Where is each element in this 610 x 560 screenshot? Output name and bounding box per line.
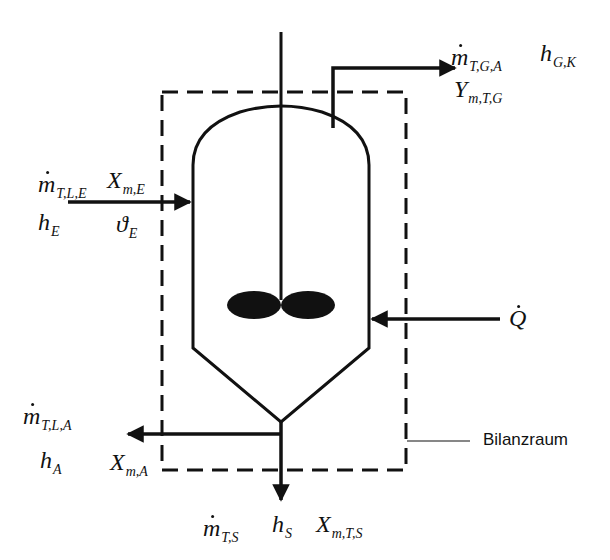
feed-loading-label: Xm,E xyxy=(107,168,145,192)
feed-mass-flow-subscript: T,L,E xyxy=(56,186,86,201)
liquid-mass-flow-symbol: m xyxy=(23,404,40,428)
solid-enthalpy-subscript: S xyxy=(285,526,292,541)
liquid-loading-subscript: m,A xyxy=(126,464,148,479)
gas-loading-label: Ym,T,G xyxy=(454,77,502,101)
liquid-enthalpy-label: hA xyxy=(40,448,62,472)
gas-enthalpy-symbol: h xyxy=(540,40,552,66)
liquid-enthalpy-symbol: h xyxy=(40,447,52,473)
diagram-canvas xyxy=(0,0,610,560)
solid-enthalpy-symbol: h xyxy=(272,511,284,537)
solid-loading-symbol: X xyxy=(316,511,331,537)
liquid-mass-flow-subscript: T,L,A xyxy=(41,418,71,433)
feed-mass-flow-label: mT,L,E xyxy=(38,172,86,196)
gas-enthalpy-subscript: G,K xyxy=(553,55,576,70)
heat-flow-label: Q xyxy=(509,306,526,330)
gas-mass-flow-symbol: m xyxy=(451,45,468,69)
feed-enthalpy-label: hE xyxy=(38,210,60,234)
solid-loading-label: Xm,T,S xyxy=(316,512,363,536)
impeller-blade-left xyxy=(227,291,281,319)
liquid-loading-label: Xm,A xyxy=(110,450,148,474)
liquid-loading-symbol: X xyxy=(110,449,125,475)
solid-loading-subscript: m,T,S xyxy=(332,526,363,541)
gas-mass-flow-label: mT,G,A xyxy=(451,45,502,69)
feed-temperature-symbol: ϑ xyxy=(116,211,128,237)
balance-space-label: Bilanzraum xyxy=(483,430,568,450)
liquid-mass-flow-label: mT,L,A xyxy=(23,404,71,428)
feed-temperature-subscript: E xyxy=(129,226,138,241)
feed-temperature-label: ϑE xyxy=(116,212,137,236)
feed-enthalpy-symbol: h xyxy=(38,209,50,235)
solid-mass-flow-label: mT,S xyxy=(203,516,239,540)
gas-loading-subscript: m,T,G xyxy=(468,91,502,106)
impeller-blade-right xyxy=(281,291,335,319)
gas-loading-symbol: Y xyxy=(454,76,467,102)
feed-loading-symbol: X xyxy=(107,167,122,193)
feed-loading-subscript: m,E xyxy=(123,182,145,197)
gas-outlet-pipe xyxy=(333,68,455,128)
liquid-enthalpy-subscript: A xyxy=(53,462,62,477)
feed-mass-flow-symbol: m xyxy=(38,172,55,196)
heat-flow-symbol: Q xyxy=(509,306,526,330)
feed-enthalpy-subscript: E xyxy=(51,224,60,239)
solid-mass-flow-subscript: T,S xyxy=(221,530,238,545)
solid-mass-flow-symbol: m xyxy=(203,516,220,540)
solid-enthalpy-label: hS xyxy=(272,512,292,536)
gas-mass-flow-subscript: T,G,A xyxy=(469,59,501,74)
gas-enthalpy-label: hG,K xyxy=(540,41,576,65)
